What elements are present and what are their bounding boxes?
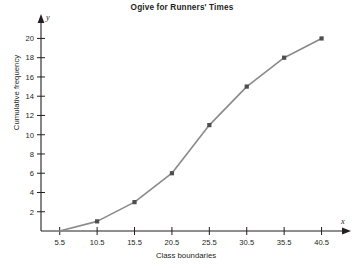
- data-point: [282, 56, 286, 60]
- y-tick-label: 18: [26, 53, 34, 62]
- x-tick-label: 35.5: [277, 238, 292, 247]
- data-point: [132, 200, 136, 204]
- x-tick-label: 25.5: [202, 238, 217, 247]
- ogive-chart: Ogive for Runners' Times y x 24681012141…: [0, 0, 364, 268]
- x-tick-label: 15.5: [127, 238, 142, 247]
- y-tick-label: 4: [30, 188, 34, 197]
- data-point: [319, 36, 323, 40]
- ogive-line: [60, 38, 322, 231]
- x-tick-label: 10.5: [90, 238, 105, 247]
- x-tick-label: 5.5: [54, 238, 65, 247]
- y-axis: [38, 14, 45, 231]
- data-point: [245, 84, 249, 88]
- y-tick-label: 2: [30, 208, 34, 217]
- plot-area: y x 2468101214161820 5.510.515.520.525.5…: [0, 0, 364, 268]
- data-point-group: [95, 36, 324, 223]
- x-axis-title: Class boundaries: [41, 251, 331, 260]
- data-point: [170, 171, 174, 175]
- x-tick-label: 20.5: [165, 238, 180, 247]
- y-tick-label: 14: [26, 92, 34, 101]
- data-point: [207, 123, 211, 127]
- y-tick-label: 8: [30, 150, 34, 159]
- x-tick-group: 5.510.515.520.525.530.535.540.5: [54, 227, 329, 247]
- x-tick-label: 40.5: [314, 238, 329, 247]
- x-axis: [41, 228, 351, 235]
- y-tick-group: 2468101214161820: [26, 34, 45, 216]
- x-axis-arrow: [342, 228, 351, 235]
- y-tick-label: 12: [26, 111, 34, 120]
- x-tick-label: 30.5: [239, 238, 254, 247]
- y-axis-letter: y: [45, 13, 50, 22]
- y-tick-label: 20: [26, 34, 34, 43]
- x-axis-letter: x: [340, 217, 345, 226]
- y-axis-title: Cumulative frequency: [12, 33, 21, 153]
- y-tick-label: 16: [26, 73, 34, 82]
- y-tick-label: 10: [26, 131, 34, 140]
- y-axis-arrow: [38, 14, 45, 23]
- y-tick-label: 6: [30, 169, 34, 178]
- data-point: [95, 219, 99, 223]
